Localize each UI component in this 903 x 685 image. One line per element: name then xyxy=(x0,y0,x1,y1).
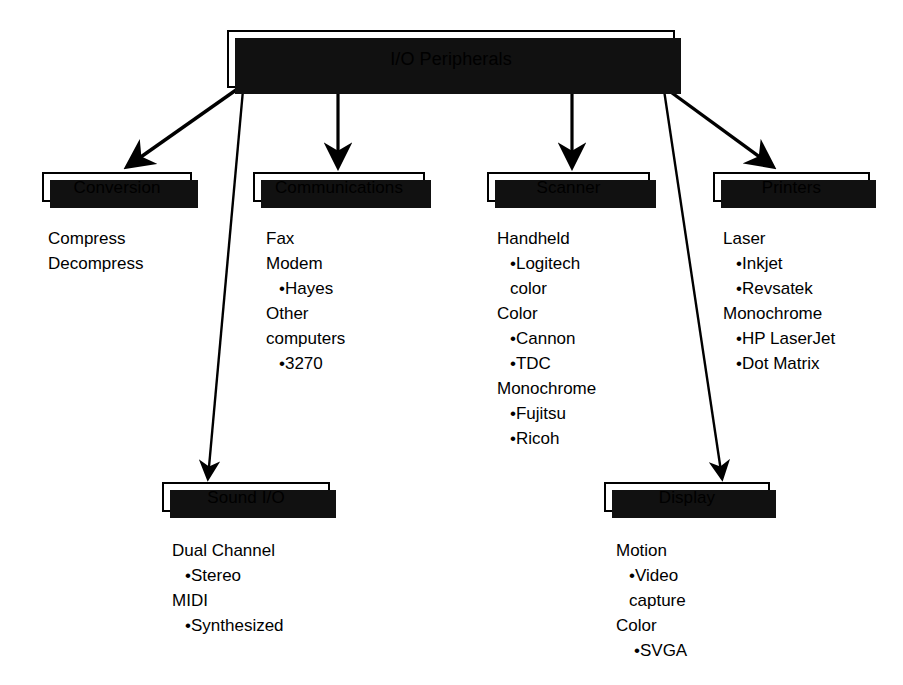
detail-text: Dot Matrix xyxy=(742,354,819,373)
detail-text: Handheld xyxy=(497,229,570,248)
detail-line: Monochrome xyxy=(497,376,596,401)
node-label-display: Display xyxy=(659,489,715,506)
detail-text: TDC xyxy=(516,354,551,373)
detail-line: computers xyxy=(266,326,345,351)
detail-bullet-line: •Revsatek xyxy=(723,276,835,301)
detail-line: color xyxy=(497,276,596,301)
diagram-canvas: I/O Peripherals Conversion Communication… xyxy=(0,0,903,685)
node-label-scanner: Scanner xyxy=(536,179,600,196)
detail-text: capture xyxy=(629,591,686,610)
detail-bullet-line: •Fujitsu xyxy=(497,401,596,426)
node-label-printers: Printers xyxy=(762,179,821,196)
detail-text: Video xyxy=(635,566,678,585)
detail-bullet-line: •SVGA xyxy=(616,638,687,663)
detail-bullet-line: •Cannon xyxy=(497,326,596,351)
detail-text: Laser xyxy=(723,229,766,248)
node-label-sound-io: Sound I/O xyxy=(207,489,284,506)
detail-bullet-line: •TDC xyxy=(497,351,596,376)
details-scanner: Handheld•LogitechcolorColor•Cannon•TDCMo… xyxy=(497,226,596,451)
detail-bullet-line: •Logitech xyxy=(497,251,596,276)
detail-text: Hayes xyxy=(285,279,333,298)
detail-text: Cannon xyxy=(516,329,576,348)
detail-text: Decompress xyxy=(48,254,143,273)
edge-root-to-sound-io xyxy=(208,90,243,478)
edge-root-to-display xyxy=(664,90,722,478)
node-scanner[interactable]: Scanner xyxy=(487,172,650,202)
node-label-communications: Communications xyxy=(275,179,403,196)
details-display: Motion•VideocaptureColor•SVGA xyxy=(616,538,687,663)
node-display[interactable]: Display xyxy=(604,482,770,512)
detail-text: HP LaserJet xyxy=(742,329,835,348)
detail-line: capture xyxy=(616,588,687,613)
detail-bullet-line: •HP LaserJet xyxy=(723,326,835,351)
detail-text: Revsatek xyxy=(742,279,813,298)
detail-bullet-line: •Synthesized xyxy=(172,613,284,638)
details-conversion: CompressDecompress xyxy=(48,226,143,276)
detail-text: Motion xyxy=(616,541,667,560)
detail-text: Fujitsu xyxy=(516,404,566,423)
edge-root-to-printers xyxy=(668,90,772,166)
detail-line: Color xyxy=(616,613,687,638)
detail-bullet-line: •Hayes xyxy=(266,276,345,301)
detail-text: MIDI xyxy=(172,591,208,610)
detail-text: Color xyxy=(497,304,538,323)
detail-line: Color xyxy=(497,301,596,326)
node-label-io-peripherals: I/O Peripherals xyxy=(390,50,512,68)
detail-line: Motion xyxy=(616,538,687,563)
detail-bullet-line: •3270 xyxy=(266,351,345,376)
edge-root-to-conversion xyxy=(128,90,236,166)
detail-line: Monochrome xyxy=(723,301,835,326)
detail-bullet-line: •Stereo xyxy=(172,563,284,588)
detail-text: 3270 xyxy=(285,354,323,373)
detail-line: Compress xyxy=(48,226,143,251)
detail-text: Color xyxy=(616,616,657,635)
detail-bullet-line: •Video xyxy=(616,563,687,588)
detail-text: Ricoh xyxy=(516,429,559,448)
node-communications[interactable]: Communications xyxy=(253,172,425,202)
detail-text: color xyxy=(510,279,547,298)
detail-bullet-line: •Ricoh xyxy=(497,426,596,451)
detail-line: Decompress xyxy=(48,251,143,276)
node-printers[interactable]: Printers xyxy=(713,172,870,202)
detail-text: Stereo xyxy=(191,566,241,585)
detail-bullet-line: •Inkjet xyxy=(723,251,835,276)
detail-text: Synthesized xyxy=(191,616,284,635)
detail-text: Fax xyxy=(266,229,294,248)
detail-text: Dual Channel xyxy=(172,541,275,560)
node-io-peripherals[interactable]: I/O Peripherals xyxy=(227,30,675,88)
node-label-conversion: Conversion xyxy=(74,179,161,196)
detail-text: SVGA xyxy=(640,641,687,660)
detail-line: Laser xyxy=(723,226,835,251)
detail-line: Dual Channel xyxy=(172,538,284,563)
detail-text: Modem xyxy=(266,254,323,273)
detail-line: MIDI xyxy=(172,588,284,613)
detail-text: Other xyxy=(266,304,309,323)
node-conversion[interactable]: Conversion xyxy=(42,172,192,202)
detail-text: Monochrome xyxy=(497,379,596,398)
details-printers: Laser•Inkjet•RevsatekMonochrome•HP Laser… xyxy=(723,226,835,376)
details-communications: FaxModem•HayesOthercomputers•3270 xyxy=(266,226,345,376)
detail-text: Logitech xyxy=(516,254,580,273)
detail-line: Handheld xyxy=(497,226,596,251)
detail-text: Monochrome xyxy=(723,304,822,323)
detail-bullet-line: •Dot Matrix xyxy=(723,351,835,376)
detail-line: Modem xyxy=(266,251,345,276)
detail-text: Inkjet xyxy=(742,254,783,273)
detail-text: computers xyxy=(266,329,345,348)
details-sound-io: Dual Channel•StereoMIDI•Synthesized xyxy=(172,538,284,638)
node-sound-io[interactable]: Sound I/O xyxy=(162,482,330,512)
detail-line: Fax xyxy=(266,226,345,251)
detail-line: Other xyxy=(266,301,345,326)
detail-text: Compress xyxy=(48,229,125,248)
